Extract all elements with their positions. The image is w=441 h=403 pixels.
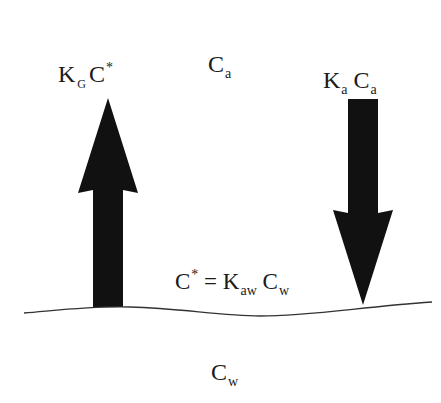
- interface-equation: C* = Kaw Cw: [175, 270, 289, 293]
- upward-flux-arrow: [78, 98, 138, 307]
- down-arrow-label: Ka Ca: [323, 68, 377, 92]
- downward-flux-arrow: [333, 99, 393, 305]
- air-concentration-label: Ca: [208, 52, 231, 76]
- air-water-interface-line: [24, 302, 432, 316]
- up-arrow-label: KGC*: [58, 62, 113, 86]
- water-concentration-label: Cw: [211, 360, 238, 384]
